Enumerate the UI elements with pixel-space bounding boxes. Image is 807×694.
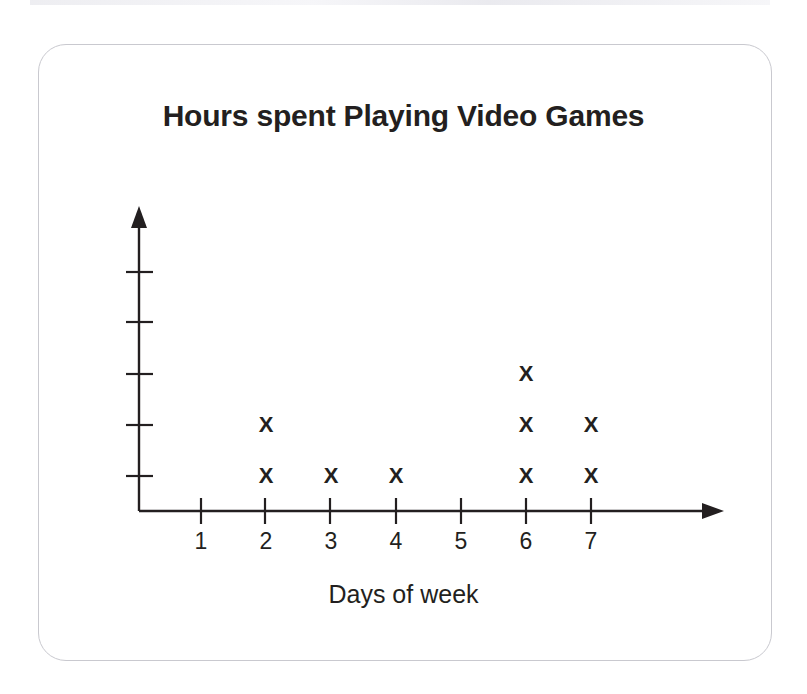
x-tick-label-6: 6	[506, 528, 546, 555]
data-marker: X	[513, 361, 539, 387]
data-marker: X	[253, 463, 279, 489]
data-marker: X	[578, 463, 604, 489]
data-marker: X	[253, 412, 279, 438]
chart-title: Hours spent Playing Video Games	[0, 99, 807, 133]
x-tick-label-3: 3	[311, 528, 351, 555]
x-tick-label-1: 1	[181, 528, 221, 555]
x-tick-label-4: 4	[376, 528, 416, 555]
data-marker: X	[513, 463, 539, 489]
data-marker: X	[513, 412, 539, 438]
x-tick-label-5: 5	[441, 528, 481, 555]
data-marker: X	[318, 463, 344, 489]
data-marker: X	[578, 412, 604, 438]
x-tick-label-2: 2	[246, 528, 286, 555]
scan-artifact-sliver	[30, 0, 770, 5]
x-tick-label-7: 7	[571, 528, 611, 555]
data-marker: X	[383, 463, 409, 489]
x-axis-label: Days of week	[0, 580, 807, 609]
chart-card-frame	[38, 44, 772, 661]
